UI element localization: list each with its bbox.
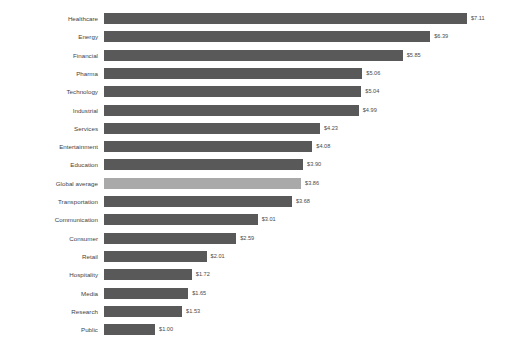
category-label: Technology — [0, 88, 104, 95]
bar-track: $1.53 — [104, 306, 531, 317]
bar — [104, 86, 361, 97]
bar — [104, 31, 430, 42]
bar-track: $1.00 — [104, 324, 531, 335]
bar-row: Hospitality$1.72 — [0, 269, 531, 280]
value-label: $4.23 — [324, 125, 338, 132]
value-label: $3.90 — [307, 161, 321, 168]
category-label: Retail — [0, 253, 104, 260]
bar-track: $5.85 — [104, 50, 531, 61]
bar-track: $2.01 — [104, 251, 531, 262]
category-label: Healthcare — [0, 15, 104, 22]
bar-track: $3.01 — [104, 214, 531, 225]
value-label: $3.01 — [262, 216, 276, 223]
value-label: $1.72 — [196, 271, 210, 278]
bar-row: Pharma$5.06 — [0, 68, 531, 79]
bar-row: Services$4.23 — [0, 123, 531, 134]
bar — [104, 306, 182, 317]
bar-track: $3.90 — [104, 159, 531, 170]
category-label: Public — [0, 326, 104, 333]
category-label: Entertainment — [0, 143, 104, 150]
category-label: Research — [0, 308, 104, 315]
bar-row: Public$1.00 — [0, 324, 531, 335]
category-label: Transportation — [0, 198, 104, 205]
category-label: Global average — [0, 180, 104, 187]
value-label: $5.04 — [365, 88, 379, 95]
value-label: $5.06 — [366, 70, 380, 77]
category-label: Communication — [0, 216, 104, 223]
category-label: Energy — [0, 33, 104, 40]
value-label: $4.08 — [316, 143, 330, 150]
value-label: $1.00 — [159, 326, 173, 333]
bar — [104, 233, 236, 244]
plot-area: Healthcare$7.11Energy$6.39Financial$5.85… — [0, 0, 531, 363]
bar — [104, 214, 258, 225]
bar-row: Communication$3.01 — [0, 214, 531, 225]
category-label: Consumer — [0, 235, 104, 242]
category-label: Financial — [0, 52, 104, 59]
category-label: Hospitality — [0, 271, 104, 278]
value-label: $3.86 — [305, 180, 319, 187]
bar-track: $6.39 — [104, 31, 531, 42]
bar-track: $3.68 — [104, 196, 531, 207]
category-label: Pharma — [0, 70, 104, 77]
bar-track: $2.59 — [104, 233, 531, 244]
bar — [104, 105, 359, 116]
category-label: Services — [0, 125, 104, 132]
bar-track: $4.23 — [104, 123, 531, 134]
bar-track: $1.65 — [104, 288, 531, 299]
bar-row: Media$1.65 — [0, 288, 531, 299]
category-label: Education — [0, 161, 104, 168]
bar-row: Financial$5.85 — [0, 50, 531, 61]
bar — [104, 13, 467, 24]
bar-row: Education$3.90 — [0, 159, 531, 170]
bar-row: Energy$6.39 — [0, 31, 531, 42]
value-label: $2.59 — [240, 235, 254, 242]
bar-track: $4.99 — [104, 105, 531, 116]
bar — [104, 251, 207, 262]
value-label: $1.53 — [186, 308, 200, 315]
bar-row: Entertainment$4.08 — [0, 141, 531, 152]
value-label: $1.65 — [192, 290, 206, 297]
value-label: $7.11 — [471, 15, 485, 22]
value-label: $4.99 — [363, 107, 377, 114]
category-label: Industrial — [0, 107, 104, 114]
bar-row: Technology$5.04 — [0, 86, 531, 97]
bar — [104, 159, 303, 170]
bar — [104, 68, 362, 79]
bar-track: $5.06 — [104, 68, 531, 79]
bar-row: Consumer$2.59 — [0, 233, 531, 244]
category-label: Media — [0, 290, 104, 297]
bar-row: Healthcare$7.11 — [0, 13, 531, 24]
bar — [104, 196, 292, 207]
value-label: $6.39 — [434, 33, 448, 40]
bar-track: $7.11 — [104, 13, 531, 24]
bar — [104, 324, 155, 335]
bar — [104, 269, 192, 280]
bar-row: Research$1.53 — [0, 306, 531, 317]
bar-row: Retail$2.01 — [0, 251, 531, 262]
bar — [104, 288, 188, 299]
bar-row: Industrial$4.99 — [0, 105, 531, 116]
bar — [104, 123, 320, 134]
bar — [104, 50, 403, 61]
bar-row: Global average$3.86 — [0, 178, 531, 189]
value-label: $2.01 — [211, 253, 225, 260]
bar-track: $1.72 — [104, 269, 531, 280]
bar-chart: Healthcare$7.11Energy$6.39Financial$5.85… — [0, 0, 531, 363]
bar — [104, 141, 312, 152]
bar-track: $3.86 — [104, 178, 531, 189]
bar-track: $5.04 — [104, 86, 531, 97]
bar-row: Transportation$3.68 — [0, 196, 531, 207]
value-label: $3.68 — [296, 198, 310, 205]
value-label: $5.85 — [407, 52, 421, 59]
bar-track: $4.08 — [104, 141, 531, 152]
bar-highlight — [104, 178, 301, 189]
